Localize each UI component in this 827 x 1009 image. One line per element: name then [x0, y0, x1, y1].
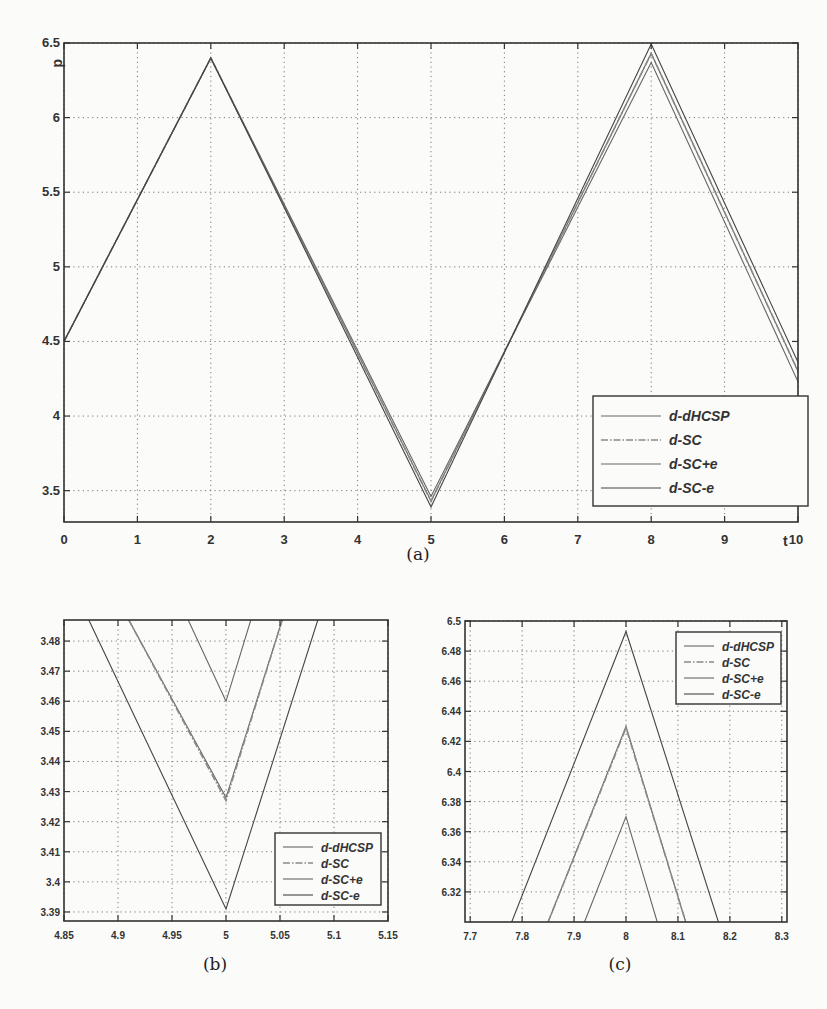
svg-text:7.8: 7.8 — [515, 931, 529, 942]
svg-text:3.39: 3.39 — [41, 907, 61, 918]
svg-text:3: 3 — [281, 532, 288, 547]
svg-text:8: 8 — [648, 532, 655, 547]
svg-text:5.05: 5.05 — [270, 930, 290, 941]
svg-text:6.38: 6.38 — [442, 797, 462, 808]
svg-text:0: 0 — [60, 532, 67, 547]
series-d-sc — [548, 728, 686, 922]
legend-label: d-SC — [669, 432, 703, 448]
series-d-dhcsp — [129, 620, 282, 798]
svg-text:3.44: 3.44 — [41, 756, 61, 767]
legend-label: d-SC+e — [669, 456, 718, 472]
svg-text:6.42: 6.42 — [442, 736, 462, 747]
svg-text:6.48: 6.48 — [442, 646, 462, 657]
series-d-sc — [129, 620, 282, 801]
svg-text:3.42: 3.42 — [41, 817, 61, 828]
svg-text:4.5: 4.5 — [42, 333, 60, 348]
svg-text:6.34: 6.34 — [442, 857, 462, 868]
svg-text:4: 4 — [53, 408, 61, 423]
svg-text:7.9: 7.9 — [567, 931, 581, 942]
legend-label: d-SC — [722, 656, 750, 670]
svg-text:6.5: 6.5 — [447, 616, 461, 627]
svg-text:3.48: 3.48 — [41, 636, 61, 647]
svg-text:3.43: 3.43 — [41, 787, 61, 798]
svg-text:1: 1 — [134, 532, 141, 547]
svg-text:2: 2 — [207, 532, 214, 547]
svg-text:6: 6 — [53, 110, 60, 125]
svg-text:3.41: 3.41 — [41, 847, 61, 858]
svg-text:3.47: 3.47 — [41, 666, 61, 677]
svg-text:4.95: 4.95 — [162, 930, 182, 941]
svg-text:5.15: 5.15 — [378, 930, 398, 941]
legend: d-dHCSPd-SCd-SC+ed-SC-e — [676, 632, 781, 704]
svg-text:5.5: 5.5 — [42, 184, 60, 199]
legend-label: d-SC-e — [321, 889, 360, 903]
figure: 0123456789103.544.555.566.5tdd-dHCSPd-SC… — [0, 0, 827, 1009]
svg-text:8: 8 — [623, 931, 629, 942]
legend-label: d-SC+e — [321, 873, 363, 887]
svg-text:5: 5 — [53, 259, 60, 274]
svg-text:6.44: 6.44 — [442, 706, 462, 717]
legend-label: d-SC-e — [722, 688, 761, 702]
svg-text:10: 10 — [789, 532, 803, 547]
svg-text:3.45: 3.45 — [41, 726, 61, 737]
legend-label: d-dHCSP — [722, 640, 775, 654]
x-axis-label: t — [783, 533, 788, 549]
svg-text:4: 4 — [354, 532, 362, 547]
svg-text:7: 7 — [574, 532, 581, 547]
caption-b: (b) — [203, 954, 227, 974]
svg-text:4.9: 4.9 — [111, 930, 125, 941]
chart-b: 4.854.94.9555.055.15.153.393.43.413.423.… — [41, 620, 399, 974]
chart-c: 7.77.87.988.18.28.36.326.346.366.386.46.… — [442, 616, 790, 974]
svg-text:5: 5 — [223, 930, 229, 941]
svg-text:8.1: 8.1 — [671, 931, 685, 942]
legend-label: d-SC-e — [669, 480, 714, 496]
legend-label: d-dHCSP — [321, 841, 374, 855]
chart-a: 0123456789103.544.555.566.5tdd-dHCSPd-SC… — [42, 35, 808, 564]
svg-text:6.36: 6.36 — [442, 827, 462, 838]
svg-text:3.46: 3.46 — [41, 696, 61, 707]
svg-text:3.5: 3.5 — [42, 483, 60, 498]
svg-text:6.5: 6.5 — [42, 35, 60, 50]
svg-text:7.7: 7.7 — [463, 931, 477, 942]
svg-text:9: 9 — [721, 532, 728, 547]
svg-text:6.46: 6.46 — [442, 676, 462, 687]
svg-text:8.3: 8.3 — [775, 931, 789, 942]
legend: d-dHCSPd-SCd-SC+ed-SC-e — [593, 396, 808, 506]
svg-text:8.2: 8.2 — [723, 931, 737, 942]
svg-text:3.4: 3.4 — [46, 877, 60, 888]
series-d-sc-e — [585, 817, 658, 922]
legend-label: d-SC — [321, 857, 349, 871]
svg-text:6.32: 6.32 — [442, 887, 462, 898]
svg-text:4.85: 4.85 — [54, 930, 74, 941]
svg-text:6.4: 6.4 — [447, 767, 461, 778]
svg-text:6: 6 — [501, 532, 508, 547]
caption-c: (c) — [609, 954, 632, 974]
caption-a: (a) — [406, 544, 429, 564]
legend-label: d-dHCSP — [669, 408, 730, 424]
y-axis-label: d — [51, 59, 67, 68]
legend-label: d-SC+e — [722, 672, 764, 686]
svg-text:5.1: 5.1 — [327, 930, 341, 941]
legend: d-dHCSPd-SCd-SC+ed-SC-e — [275, 833, 381, 905]
series-d-sc-e — [188, 620, 251, 701]
